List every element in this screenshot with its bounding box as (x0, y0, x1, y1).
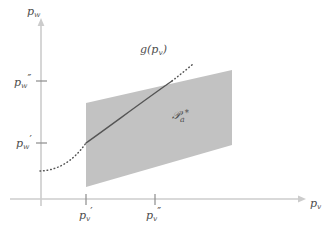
region-label-base: 𝒫 (172, 108, 180, 122)
tick-base: p (14, 76, 21, 89)
y-axis-label-base: p (27, 5, 34, 18)
plot-svg (0, 0, 333, 245)
tick-prime: ″ (27, 72, 31, 84)
y-tick-label-pw-prime: pw′ (16, 134, 32, 150)
tick-base: p (79, 209, 86, 222)
x-tick-label-pv-prime: pv′ (79, 206, 93, 222)
tick-base: p (16, 137, 23, 150)
curve-label-close: ) (163, 43, 167, 56)
region-label: 𝒫a* (172, 109, 189, 123)
y-axis-label: pw (27, 6, 40, 19)
y-tick-label-pw-double-prime: pw″ (14, 73, 32, 89)
x-axis-label-base: p (310, 197, 317, 210)
curve-dotted-right (172, 64, 193, 81)
tick-prime: ′ (90, 205, 93, 217)
feasible-region-shape (86, 70, 232, 187)
region-label-sup: * (185, 108, 189, 118)
x-axis-label: pv (310, 198, 321, 211)
x-axis-label-sub: v (317, 202, 321, 211)
curve-label-g: g(pv) (140, 44, 167, 57)
x-tick-label-pv-double-prime: pv″ (146, 206, 161, 222)
tick-prime: ′ (29, 133, 32, 145)
curve-label-base: g (140, 43, 147, 56)
tick-prime: ″ (157, 205, 161, 217)
y-axis-arrowhead (38, 18, 45, 26)
x-axis-arrowhead (298, 196, 306, 203)
curve-dotted-left (40, 143, 86, 171)
tick-base: p (146, 209, 153, 222)
y-axis-label-sub: w (34, 10, 40, 19)
figure-canvas: pw pv pw″ pw′ pv′ pv″ g(pv) 𝒫a* (0, 0, 333, 245)
